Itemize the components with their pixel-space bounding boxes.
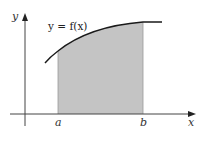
x-axis-label: x (188, 116, 195, 129)
diagram-canvas: y x a b y = f(x) (0, 0, 200, 142)
curve-label: y = f(x) (47, 20, 87, 32)
lower-bound-label: a (55, 116, 62, 129)
y-axis-arrow-icon (22, 13, 28, 21)
area-under-curve-diagram: y x a b y = f(x) (0, 0, 200, 142)
shaded-area (58, 22, 143, 114)
upper-bound-label: b (140, 116, 147, 129)
y-axis-label: y (11, 10, 19, 23)
